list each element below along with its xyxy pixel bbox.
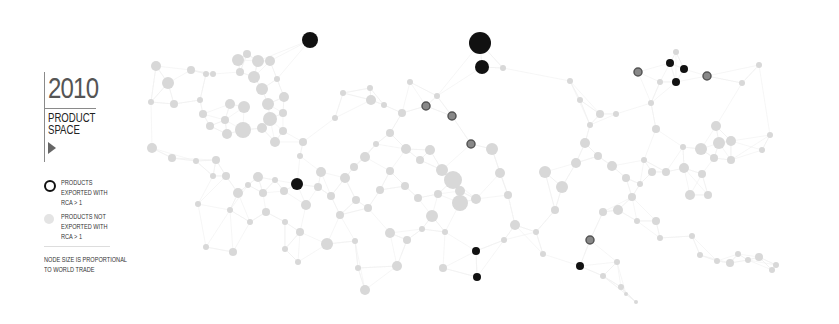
- product-node: [195, 201, 201, 207]
- product-node: [439, 264, 447, 272]
- product-node: [714, 258, 720, 264]
- product-node: [301, 200, 311, 210]
- product-node: [713, 137, 725, 149]
- product-node-exported: [467, 140, 475, 148]
- product-node: [262, 208, 270, 216]
- product-node-exported: [703, 72, 711, 80]
- nodes-exported-ring: [422, 68, 711, 244]
- product-node: [695, 143, 707, 155]
- product-node: [170, 100, 178, 108]
- product-node: [727, 156, 735, 164]
- product-node: [279, 92, 289, 102]
- product-node: [297, 153, 303, 159]
- product-node: [229, 248, 237, 256]
- product-node: [767, 132, 773, 138]
- product-node: [698, 170, 706, 178]
- product-node: [210, 173, 216, 179]
- product-node: [504, 191, 512, 199]
- product-node: [577, 97, 583, 103]
- product-node: [710, 154, 718, 162]
- product-node: [360, 285, 370, 295]
- product-node: [533, 229, 539, 235]
- product-node: [259, 189, 267, 197]
- node-size-note: NODE SIZE IS PROPORTIONAL TO WORLD TRADE: [44, 255, 127, 275]
- product-node: [212, 156, 220, 164]
- product-node: [455, 186, 465, 196]
- product-node: [657, 79, 663, 85]
- product-node: [594, 152, 602, 160]
- product-node: [253, 172, 263, 182]
- product-node: [352, 196, 360, 204]
- product-node: [247, 219, 253, 225]
- product-node: [392, 261, 402, 271]
- product-node: [256, 83, 268, 95]
- legend: PRODUCTS EXPORTED WITH RCA > 1 PRODUCTS …: [44, 178, 134, 246]
- product-node-exported: [473, 273, 481, 281]
- product-node: [282, 219, 288, 225]
- product-node-exported: [666, 59, 674, 67]
- product-node-exported: [672, 78, 680, 86]
- product-node: [613, 111, 619, 117]
- product-node: [227, 207, 233, 213]
- product-node: [614, 259, 620, 265]
- product-node-exported: [469, 32, 491, 54]
- product-node: [295, 259, 301, 265]
- product-node: [238, 101, 250, 113]
- product-node: [452, 195, 468, 211]
- product-node: [726, 136, 736, 146]
- product-node: [634, 218, 640, 224]
- product-node: [571, 158, 581, 168]
- product-node: [257, 123, 267, 133]
- product-node: [187, 66, 195, 74]
- product-node: [580, 138, 590, 148]
- product-node: [622, 174, 630, 182]
- product-node: [556, 181, 568, 193]
- product-space-network: [0, 0, 839, 324]
- play-triangle-icon[interactable]: [48, 142, 56, 154]
- product-node-exported: [448, 112, 456, 120]
- product-node-exported: [586, 236, 594, 244]
- product-node: [280, 187, 288, 195]
- product-node: [652, 125, 660, 133]
- product-node: [265, 56, 275, 66]
- product-node: [321, 238, 333, 250]
- product-node: [745, 257, 751, 263]
- product-node: [567, 78, 573, 84]
- product-node-exported: [472, 247, 480, 255]
- product-node: [735, 251, 741, 257]
- product-node: [147, 143, 157, 153]
- product-node: [680, 144, 686, 150]
- product-node: [540, 251, 546, 257]
- product-node: [403, 236, 411, 244]
- product-node: [386, 167, 394, 175]
- product-node: [233, 188, 243, 198]
- product-node: [648, 168, 656, 176]
- product-node-exported: [422, 102, 430, 110]
- product-node: [350, 163, 358, 171]
- product-node: [197, 97, 203, 103]
- product-node: [336, 211, 344, 219]
- product-node: [613, 205, 623, 215]
- nodes-exported: [291, 32, 688, 281]
- product-node: [634, 300, 638, 304]
- product-node: [596, 110, 604, 118]
- product-node: [367, 85, 373, 91]
- product-node: [773, 262, 779, 268]
- product-node: [314, 183, 322, 191]
- legend-item-exported: PRODUCTS EXPORTED WITH RCA > 1: [44, 178, 134, 210]
- product-node: [551, 206, 559, 214]
- product-node-exported: [475, 60, 489, 74]
- legend-divider: [44, 246, 110, 247]
- product-node: [203, 244, 209, 250]
- product-node: [398, 109, 406, 117]
- light-dot-icon: [44, 214, 54, 224]
- product-node: [426, 210, 438, 222]
- legend-label: PRODUCTS NOT EXPORTED WITH RCA > 1: [61, 212, 108, 242]
- product-node: [274, 76, 280, 82]
- product-node: [364, 204, 372, 212]
- product-node: [641, 157, 647, 163]
- product-node: [225, 99, 235, 109]
- product-node: [755, 253, 763, 261]
- product-node: [206, 122, 214, 130]
- panel-divider-horizontal: [44, 108, 96, 109]
